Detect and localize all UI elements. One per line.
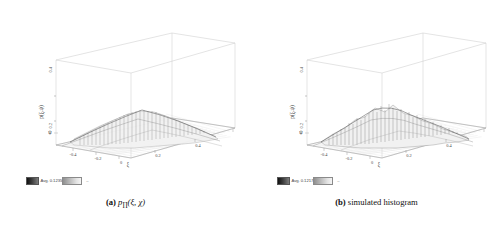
x-tick-2: 0: [371, 160, 374, 165]
subcaption-b: (b) simulated histogram: [251, 197, 502, 207]
x-tick-3: 0.2: [155, 153, 161, 158]
x-tick-0: -0.4: [321, 152, 329, 157]
surface-plot-b[interactable]: 0.2 0.4 p(ξ,ψ) ψ: [251, 0, 502, 175]
z-axis-ticks-a: 0.2 0.4: [48, 66, 56, 128]
x-tick-2: 0: [120, 160, 123, 165]
plot-area-a[interactable]: 0.2 0.4 p(ξ,ψ) ψ: [0, 0, 251, 175]
figure-panel-a: 0.2 0.4 p(ξ,ψ) ψ: [0, 0, 251, 227]
plot-area-b[interactable]: 0.2 0.4 p(ξ,ψ) ψ: [251, 0, 502, 175]
y-axis-label-b: ψ: [299, 129, 303, 135]
x-tick-1: -0.2: [95, 156, 102, 161]
subcaption-expr-args-a: (ξ, χ): [128, 197, 145, 207]
legend-badge-a[interactable]: Avg. 0.1235 –: [26, 176, 89, 185]
x-tick-0: -0.4: [70, 152, 78, 157]
subcaption-a: (a) pΠ(ξ, χ): [0, 197, 251, 210]
legend-gradient-icon: [313, 177, 333, 185]
z-axis-ticks-b: 0.2 0.4: [299, 66, 307, 128]
subcaption-tag-b: (b): [335, 197, 346, 207]
x-axis-label-a: ξ: [127, 161, 130, 168]
z-axis-label-b: p(ξ,ψ): [289, 105, 296, 119]
x-tick-4: 0.4: [446, 143, 452, 148]
z-tick-1: 0.4: [299, 66, 304, 72]
legend-tail-b: –: [337, 176, 339, 185]
subcaption-expr-a: pΠ(ξ, χ): [118, 197, 145, 207]
x-axis-label-b: ξ: [378, 161, 381, 168]
legend-value-b: Avg. 0.1217: [292, 176, 314, 185]
x-tick-1: -0.2: [346, 156, 353, 161]
subcaption-text-b: simulated histogram: [348, 197, 418, 207]
figure-container: 0.2 0.4 p(ξ,ψ) ψ: [0, 0, 502, 227]
x-tick-4: 0.4: [195, 143, 201, 148]
x-tick-3: 0.2: [406, 153, 412, 158]
surface-plot-a[interactable]: 0.2 0.4 p(ξ,ψ) ψ: [0, 0, 251, 175]
legend-tail-a: –: [86, 176, 88, 185]
z-tick-0: 0.2: [299, 123, 304, 129]
y-axis-label-a: ψ: [48, 129, 52, 135]
z-tick-0: 0.2: [48, 123, 53, 129]
legend-swatch-icon: [26, 177, 39, 185]
subcaption-tag-a: (a): [106, 197, 116, 207]
z-tick-1: 0.4: [48, 66, 53, 72]
z-axis-label-a: p(ξ,ψ): [38, 105, 45, 119]
figure-panel-b: 0.2 0.4 p(ξ,ψ) ψ: [251, 0, 502, 227]
legend-value-a: Avg. 0.1235: [41, 176, 63, 185]
legend-swatch-icon: [277, 177, 290, 185]
legend-badge-b[interactable]: Avg. 0.1217 –: [277, 176, 340, 185]
legend-gradient-icon: [62, 177, 82, 185]
